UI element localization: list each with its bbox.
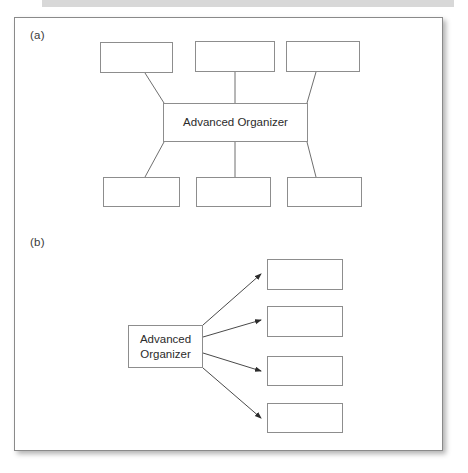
panel-b-organizer-line-2: Organizer	[140, 348, 191, 360]
panel-b-target-node-3	[267, 356, 343, 386]
panel-a-bottom-node-3	[287, 177, 362, 207]
panel-b-advanced-organizer-box: Advanced Organizer	[128, 325, 203, 368]
panel-a-top-node-2	[195, 41, 275, 72]
panel-a-bottom-node-2	[196, 177, 271, 207]
figure-page: (a) (b) Advanced Organizer Advanced Orga…	[0, 0, 468, 473]
panel-b-target-node-2	[267, 306, 343, 337]
panel-a-advanced-organizer-box: Advanced Organizer	[163, 103, 308, 142]
panel-b-advanced-organizer-label: Advanced Organizer	[140, 332, 191, 361]
page-top-edge-band	[42, 0, 454, 7]
panel-a-top-node-1	[100, 42, 173, 73]
panel-b-target-node-4	[267, 403, 343, 433]
panel-b-organizer-line-1: Advanced	[140, 333, 191, 345]
panel-a-advanced-organizer-label: Advanced Organizer	[183, 115, 288, 129]
panel-a-top-node-3	[286, 41, 360, 72]
panel-b-label: (b)	[30, 236, 45, 248]
panel-a-bottom-node-1	[103, 177, 180, 207]
panel-a-label: (a)	[30, 29, 45, 41]
figure-frame	[14, 17, 443, 451]
panel-b-target-node-1	[267, 259, 343, 290]
